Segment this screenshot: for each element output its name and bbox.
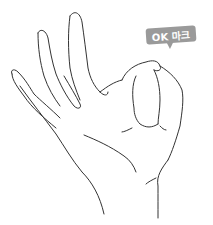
illustration-canvas: OK 마크 bbox=[0, 0, 213, 225]
bubble-label: OK 마크 bbox=[151, 26, 191, 44]
